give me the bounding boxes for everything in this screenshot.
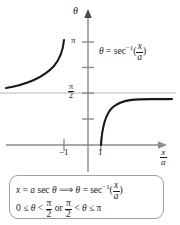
formula-sec: sec xyxy=(37,185,49,195)
y-tick-label-pi: π xyxy=(71,36,76,45)
range-pi-denominator-2: 2 xyxy=(65,209,72,220)
formula-theta: θ xyxy=(52,185,57,195)
x-axis-label-numerator: x xyxy=(160,148,167,157)
formula-func: sec xyxy=(90,185,102,195)
range-le-2: ≤ xyxy=(89,203,94,213)
range-theta-2: θ xyxy=(82,203,87,213)
y-tick-label-pi-half: π 2 xyxy=(68,83,74,100)
x-axis-label: x a xyxy=(160,148,167,167)
x-axis-label-fraction: x a xyxy=(160,148,167,167)
curve-left-branch xyxy=(6,40,64,88)
range-pi-denominator-1: 2 xyxy=(46,209,53,220)
range-lt-1: < xyxy=(38,203,43,213)
curve-equation-label: θ = sec−1(xa) xyxy=(99,42,146,62)
formula-implies-icon: ⟹ xyxy=(59,185,73,195)
formula-equals: = xyxy=(23,185,28,195)
figure-arcsec-graph: θ x a π π 2 −1 1 θ = sec−1(xa) x = a sec… xyxy=(0,0,180,225)
range-pi-half-2: π2 xyxy=(65,199,72,219)
curve-eq-close-paren: ) xyxy=(143,46,146,56)
formula-arg-numerator: x xyxy=(113,181,120,191)
x-tick-label-one: 1 xyxy=(98,148,103,157)
range-pi-half-1: π2 xyxy=(46,199,53,219)
x-tick-label-negative-one: −1 xyxy=(59,148,69,157)
range-zero: 0 xyxy=(16,203,21,213)
range-lt-2: < xyxy=(74,203,79,213)
curve-eq-equals: = xyxy=(106,46,111,56)
range-pi-numerator-2: π xyxy=(65,199,72,209)
formula-line-2: 0 ≤ θ < π2 or π2 < θ ≤ π xyxy=(16,199,101,219)
formula-theta-2: θ xyxy=(75,185,80,195)
formula-exponent: −1 xyxy=(102,183,109,190)
range-theta-1: θ xyxy=(31,203,36,213)
curve-eq-func: sec xyxy=(114,46,126,56)
curve-right-branch xyxy=(101,99,172,145)
y-axis-label: θ xyxy=(73,6,78,16)
y-axis-arrow-icon xyxy=(84,9,92,18)
formula-fraction: xa xyxy=(113,181,120,201)
pi-half-denominator: 2 xyxy=(68,91,74,100)
pi-half-numerator: π xyxy=(68,83,74,91)
pi-half-fraction: π 2 xyxy=(68,83,74,100)
formula-arg-denominator: a xyxy=(113,191,120,202)
curve-eq-theta: θ xyxy=(99,46,104,56)
range-pi-numerator-1: π xyxy=(46,199,53,209)
formula-equals-2: = xyxy=(82,185,87,195)
formula-close-paren: ) xyxy=(120,185,123,195)
formula-lhs-x: x xyxy=(16,185,20,195)
range-le-1: ≤ xyxy=(23,203,28,213)
formula-a: a xyxy=(30,185,35,195)
range-or: or xyxy=(55,203,63,213)
range-pi: π xyxy=(97,203,102,213)
x-axis-label-denominator: a xyxy=(160,157,167,167)
